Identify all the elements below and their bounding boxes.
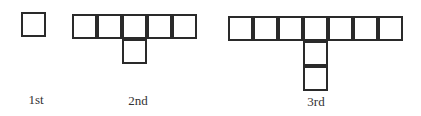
figure-label: 3rd [307,94,324,110]
square-cell [253,16,278,41]
square-cell [278,16,303,41]
square-cell [147,14,172,39]
figure-label: 1st [28,92,43,108]
square-cell [353,16,378,41]
square-cell [328,16,353,41]
square-cell [378,16,403,41]
square-cell [122,39,147,64]
square-cell [303,66,328,91]
square-cell [97,14,122,39]
square-cell [21,12,46,37]
square-cell [303,16,328,41]
square-cell [122,14,147,39]
square-cell [228,16,253,41]
square-cell [72,14,97,39]
square-cell [172,14,197,39]
square-cell [303,41,328,66]
figure-label: 2nd [128,93,148,109]
